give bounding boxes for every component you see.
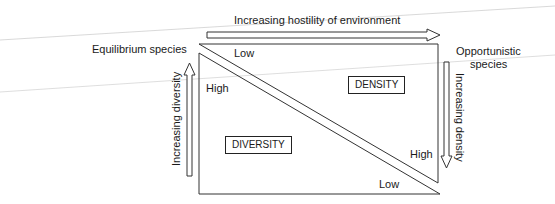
- equilibrium-species-label: Equilibrium species: [92, 44, 187, 55]
- diagram-canvas: [0, 0, 555, 204]
- right-axis-label: Increasing density: [454, 73, 465, 162]
- opportunistic-species-label-line1: Opportunistic: [456, 46, 521, 57]
- diversity-low-label: Low: [379, 179, 399, 190]
- density-box: DENSITY: [348, 76, 405, 94]
- opportunistic-species-label-line2: species: [470, 59, 507, 70]
- top-axis-label: Increasing hostility of environment: [234, 15, 400, 26]
- diversity-triangle: [199, 53, 440, 194]
- density-high-label: High: [410, 149, 433, 160]
- left-axis-label: Increasing diversity: [171, 72, 182, 166]
- diversity-high-label: High: [206, 83, 229, 94]
- density-down-arrow-icon: [441, 62, 452, 168]
- diversity-box: DIVERSITY: [225, 136, 292, 154]
- hostility-arrow-icon: [207, 29, 440, 41]
- density-low-label: Low: [234, 48, 254, 59]
